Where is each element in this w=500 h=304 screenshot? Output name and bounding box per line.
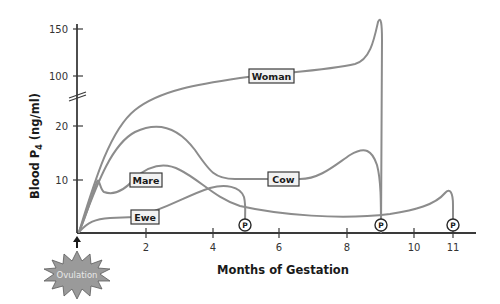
y-tick-label-100: 100 [49, 71, 68, 82]
y-tick-label-10: 10 [55, 175, 68, 186]
y-tick-label-150: 150 [49, 24, 68, 35]
series-label-mare: Mare [130, 173, 162, 187]
y-tick-label-20: 20 [55, 121, 68, 132]
svg-text:P: P [242, 221, 248, 230]
y-axis-title: Blood P4 (ng/ml) [28, 93, 44, 199]
x-tick-label-11: 11 [447, 242, 460, 253]
svg-text:P: P [450, 221, 456, 230]
y-axis-title-unit: (ng/ml) [28, 93, 42, 144]
series-woman-curve [79, 20, 382, 232]
series-label-cow: Cow [268, 172, 299, 186]
svg-text:Blood P4 (ng/ml): Blood P4 (ng/ml) [28, 93, 44, 199]
svg-text:Cow: Cow [272, 174, 294, 185]
x-tick-label-6: 6 [276, 242, 282, 253]
x-tick-label-8: 8 [344, 242, 350, 253]
series-label-woman: Woman [249, 69, 294, 83]
parturition-marker-9: P [375, 219, 387, 231]
parturition-marker-11: P [447, 219, 459, 231]
x-axis-title: Months of Gestation [217, 263, 349, 277]
x-tick-label-10: 10 [408, 242, 421, 253]
progesterone-gestation-chart: 150 100 20 10 2 4 6 8 10 11 Months of Ge… [0, 0, 500, 304]
x-tick-label-4: 4 [210, 242, 216, 253]
series-label-ewe: Ewe [131, 210, 159, 224]
svg-text:Mare: Mare [133, 175, 160, 186]
svg-text:P: P [378, 221, 384, 230]
up-arrow-icon [73, 236, 81, 248]
svg-text:Ewe: Ewe [134, 212, 156, 223]
ovulation-label: Ovulation [57, 270, 98, 280]
parturition-marker-5: P [239, 219, 251, 231]
svg-text:Woman: Woman [252, 71, 292, 82]
y-ticks [73, 29, 83, 180]
y-axis-title-main: Blood P [28, 150, 42, 199]
x-tick-label-2: 2 [143, 242, 149, 253]
